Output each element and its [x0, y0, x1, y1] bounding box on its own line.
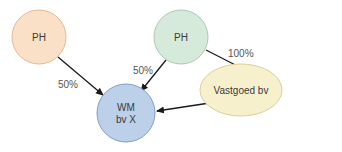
node-vastgoed-label: Vastgoed bv [214, 85, 269, 96]
node-wm-label-line2: bv X [116, 114, 136, 125]
ownership-diagram: 50% 50% 100% PH PH WM bv X Vastgoed bv [0, 0, 342, 152]
node-ph-left: PH [12, 10, 66, 64]
edge-label-ph-left-wm: 50% [58, 79, 78, 90]
node-ph-left-label: PH [32, 32, 46, 43]
edge-label-ph-right-wm: 50% [133, 65, 153, 76]
node-ph-right: PH [154, 10, 208, 64]
edge-label-ph-right-vastgoed: 100% [228, 48, 254, 59]
node-wm-shape [97, 84, 155, 142]
node-wm-label-line1: WM [117, 102, 135, 113]
node-ph-right-label: PH [174, 32, 188, 43]
node-wm: WM bv X [97, 84, 155, 142]
node-vastgoed: Vastgoed bv [200, 64, 282, 116]
